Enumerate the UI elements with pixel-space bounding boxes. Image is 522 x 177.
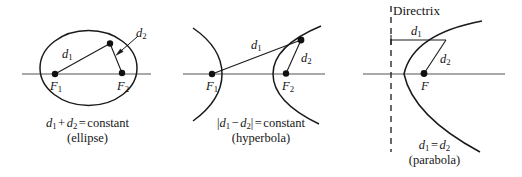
- hyperbola-caption-line1: |d1−d2|=constant: [175, 116, 347, 131]
- ellipse-d2-label: d2: [136, 27, 147, 41]
- hyperbola-focus2-label: F2: [282, 80, 294, 94]
- ellipse-panel: F1 F2 d1 d2 d1+d2=constant (ellipse): [0, 0, 175, 177]
- focus1-dot: [52, 71, 58, 77]
- ellipse-caption: d1+d2=constant (ellipse): [0, 116, 175, 146]
- parabola-caption-line2: (parabola): [347, 153, 522, 168]
- hyperbola-d2-label: d2: [301, 52, 312, 66]
- ellipse-caption-line1: d1+d2=constant: [0, 116, 175, 131]
- focus2-dot: [283, 70, 289, 76]
- hyperbola-caption: |d1−d2|=constant (hyperbola): [175, 116, 347, 146]
- hyperbola-diagram: [175, 0, 347, 177]
- parabola-focus-label: F: [421, 80, 429, 93]
- ellipse-diagram: [0, 0, 175, 177]
- hyperbola-caption-line2: (hyperbola): [175, 131, 347, 146]
- ellipse-focus2-label: F2: [117, 80, 129, 94]
- parabola-caption-line1: d1=d2: [347, 138, 522, 153]
- curve-point-dot: [298, 37, 305, 44]
- parabola-caption: d1=d2 (parabola): [347, 138, 522, 168]
- hyperbola-d1-label: d1: [251, 39, 262, 53]
- parabola-d2-label: d2: [440, 53, 451, 67]
- hyperbola-panel: F1 F2 d1 d2 |d1−d2|=constant (hyperbola): [175, 0, 347, 177]
- focus2-dot: [119, 70, 125, 76]
- parabola-d1-label: d1: [411, 25, 422, 39]
- directrix-label: Directrix: [393, 4, 440, 17]
- conics-figure: F1 F2 d1 d2 d1+d2=constant (ellipse): [0, 0, 522, 177]
- parabola-panel: Directrix F d1 d2 d1=d2 (parabola): [347, 0, 522, 177]
- hyperbola-focus1-label: F1: [206, 80, 218, 94]
- ellipse-curve: [40, 31, 137, 106]
- parabola-curve: [404, 21, 482, 152]
- hyperbola-right-branch: [273, 26, 321, 124]
- focus1-dot: [209, 71, 215, 77]
- focus-dot: [421, 70, 428, 77]
- ellipse-d1-label: d1: [62, 48, 73, 62]
- ellipse-focus1-label: F1: [50, 80, 62, 94]
- d2-segment: [110, 44, 122, 74]
- curve-point-dot: [107, 40, 113, 46]
- ellipse-caption-line2: (ellipse): [0, 131, 175, 146]
